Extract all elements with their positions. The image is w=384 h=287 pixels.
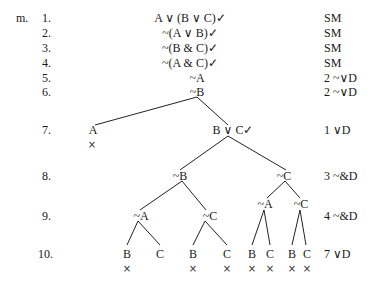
line-number: 9. (42, 209, 51, 223)
justification: 1 ∨D (324, 123, 350, 137)
justification: 3 ~&D (324, 169, 358, 183)
closed-branch-icon: × (266, 262, 274, 276)
tree-node: ~A (133, 209, 148, 223)
tree-node: ~C (277, 169, 292, 183)
tree-leaf: B (288, 247, 296, 261)
justification: 4 ~&D (324, 209, 358, 223)
check-mark-icon: ✓ (243, 123, 253, 137)
tree-node: ~B (173, 169, 188, 183)
justification: 2 ~∨D (324, 85, 357, 99)
formula: A ∨ (B ∨ C)✓ (154, 11, 226, 25)
line-number: 7. (42, 123, 51, 137)
closed-branch-icon: × (189, 262, 197, 276)
closed-branch-icon: × (288, 262, 296, 276)
closed-branch-icon: × (123, 262, 131, 276)
closed-branch-icon: × (248, 262, 256, 276)
tree-leaf: C (303, 247, 311, 261)
formula: ~B (190, 85, 205, 99)
line-number: 4. (42, 56, 51, 70)
tree-leaf: B (248, 247, 256, 261)
tree-leaf: C (156, 247, 164, 261)
check-mark-icon: ✓ (208, 26, 218, 40)
tree-leaf: B (123, 247, 131, 261)
tree-leaf: C (223, 247, 231, 261)
formula: ~(B & C)✓ (162, 41, 218, 55)
closed-branch-icon: × (303, 262, 311, 276)
justification: SM (324, 26, 341, 40)
check-mark-icon: ✓ (208, 56, 218, 70)
formula: ~A (189, 71, 204, 85)
closed-branch-icon: × (88, 138, 96, 152)
problem-label: m. (16, 11, 28, 25)
tree-node: B ∨ C✓ (213, 123, 254, 137)
justification: SM (324, 41, 341, 55)
justification: 7 ∨D (324, 247, 350, 261)
line-number: 5. (42, 71, 51, 85)
check-mark-icon: ✓ (216, 11, 226, 25)
line-number: 1. (42, 11, 51, 25)
formula: ~(A ∨ B)✓ (162, 26, 217, 40)
tree-node: A (89, 123, 98, 137)
justification: SM (324, 56, 341, 70)
closed-branch-icon: × (223, 262, 231, 276)
line-number: 2. (42, 26, 51, 40)
tree-node: ~C (203, 209, 218, 223)
check-mark-icon: ✓ (208, 41, 218, 55)
line-number: 3. (42, 41, 51, 55)
formula: ~(A & C)✓ (162, 56, 218, 70)
tree-node: ~C (294, 197, 309, 211)
line-number: 6. (42, 85, 51, 99)
tree-node: ~A (257, 197, 272, 211)
justification: SM (324, 11, 341, 25)
line-number: 8. (42, 169, 51, 183)
tree-leaf: B (189, 247, 197, 261)
justification: 2 ~∨D (324, 71, 357, 85)
tree-leaf: C (266, 247, 274, 261)
line-number: 10. (38, 247, 53, 261)
